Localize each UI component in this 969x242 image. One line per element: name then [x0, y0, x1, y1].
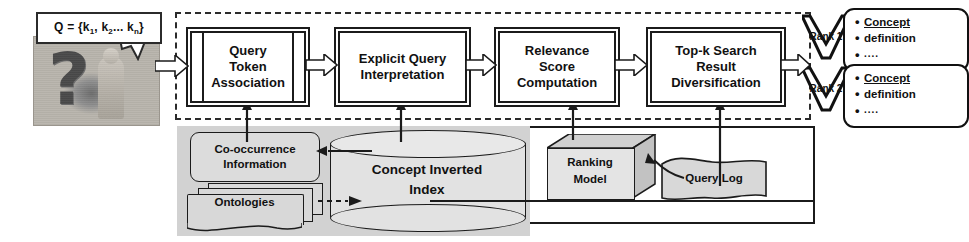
query-string-bubble: Q = {k1, k2... kn}	[36, 12, 162, 44]
rank-2-label: Rank 2	[804, 83, 848, 94]
stage-top-k-search-result-diversification[interactable]: Top-k Search Result Diversification	[646, 27, 786, 107]
stage-query-token-association[interactable]: Query Token Association	[186, 27, 310, 107]
arrow-stage3-to-stage4	[615, 54, 648, 76]
result-1-list: Concept definition ....	[855, 14, 967, 61]
cooccurrence-information-store[interactable]: Co-occurrence Information	[190, 132, 320, 182]
arrow-ontologies-to-index	[318, 194, 362, 208]
result-2-more: ....	[855, 103, 967, 117]
ontologies-label: Ontologies	[187, 196, 302, 208]
arrow-query-to-stage1	[155, 55, 189, 77]
query-text: Q = {k1, k2... kn}	[54, 20, 144, 36]
stage1-label: Query Token Association	[205, 43, 291, 92]
result-card-rank-1[interactable]: Concept definition ....	[843, 8, 969, 72]
stage-explicit-query-interpretation[interactable]: Explicit Query Interpretation	[334, 27, 471, 107]
ontologies-document-stack[interactable]: Ontologies	[186, 183, 331, 231]
cylinder-bottom	[330, 204, 526, 232]
result-2-list: Concept definition ....	[855, 70, 967, 117]
result-card-rank-2[interactable]: Concept definition ....	[843, 64, 969, 128]
stage1-left-divider	[202, 33, 204, 101]
rank-1-label: Rank 1	[804, 31, 848, 42]
result-1-definition: definition	[855, 30, 967, 46]
ranking-model-label: Ranking Model	[547, 154, 633, 187]
result-1-concept-link[interactable]: Concept	[855, 14, 967, 30]
arrow-query-log-to-ranking-model	[640, 150, 686, 180]
cooccurrence-label: Co-occurrence Information	[214, 142, 295, 172]
stage3-label: Relevance Score Computation	[511, 43, 603, 92]
arrow-stage2-to-stage3	[466, 54, 497, 76]
ontology-doc-wave	[187, 223, 302, 235]
stage-relevance-score-computation[interactable]: Relevance Score Computation	[494, 27, 620, 107]
result-1-more: ....	[855, 47, 967, 61]
arrow-index-to-cooccurrence	[316, 144, 372, 158]
stage4-label: Top-k Search Result Diversification	[665, 43, 767, 92]
arrow-index-to-stage4	[713, 100, 727, 186]
result-2-concept-link[interactable]: Concept	[855, 70, 967, 86]
connector-index-to-ranking-panel	[430, 196, 813, 206]
arrow-stage1-to-stage2	[306, 54, 338, 76]
stage1-right-divider	[292, 33, 294, 101]
stage2-label: Explicit Query Interpretation	[353, 51, 452, 84]
arrow-stage4-to-results	[781, 54, 811, 76]
result-2-definition: definition	[855, 86, 967, 102]
